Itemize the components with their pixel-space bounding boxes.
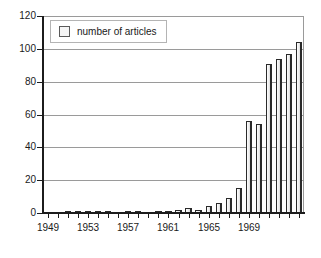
x-axis-tick-label: 1969 — [238, 222, 260, 233]
y-axis-tick-label: 40 — [2, 142, 36, 152]
x-axis-tick — [118, 214, 119, 218]
x-axis-tick — [108, 214, 109, 218]
y-axis-tick-label: 60 — [2, 110, 36, 120]
bar — [246, 121, 252, 213]
x-axis-tick — [68, 214, 69, 218]
y-axis-tick-label: 80 — [2, 77, 36, 87]
legend: number of articles — [50, 20, 167, 43]
y-axis-tick-label: 0 — [2, 208, 36, 218]
x-axis-tick — [179, 214, 180, 218]
x-axis-tick — [128, 214, 129, 218]
bar — [266, 64, 272, 213]
bar — [296, 42, 302, 213]
x-axis-tick-label: 1965 — [198, 222, 220, 233]
x-axis-tick — [259, 214, 260, 218]
legend-label: number of articles — [77, 26, 156, 37]
bar-chart: 020406080100120 194919531957196119651969… — [0, 0, 321, 258]
y-axis-line — [42, 16, 44, 214]
x-axis-tick — [168, 214, 169, 218]
x-axis-tick — [48, 214, 49, 218]
x-axis-tick-label: 1949 — [37, 222, 59, 233]
x-axis-line — [42, 212, 305, 214]
x-axis-tick — [58, 214, 59, 218]
x-axis-tick — [269, 214, 270, 218]
x-axis-tick — [229, 214, 230, 218]
x-axis-tick — [239, 214, 240, 218]
bar — [256, 124, 262, 213]
y-axis-tick-label: 120 — [2, 11, 36, 21]
y-axis-tick-label: 20 — [2, 175, 36, 185]
x-axis-tick — [279, 214, 280, 218]
legend-swatch-icon — [59, 26, 70, 37]
x-axis-tick — [189, 214, 190, 218]
x-axis-tick — [148, 214, 149, 218]
x-axis-tick-label: 1957 — [117, 222, 139, 233]
x-axis-tick — [78, 214, 79, 218]
x-axis-tick-label: 1961 — [157, 222, 179, 233]
x-axis-tick — [249, 214, 250, 218]
x-axis-tick — [289, 214, 290, 218]
x-axis-tick — [138, 214, 139, 218]
x-axis-tick-label: 1953 — [77, 222, 99, 233]
x-axis-tick — [209, 214, 210, 218]
bar — [276, 59, 282, 213]
bar — [286, 54, 292, 213]
y-axis-tick-label: 100 — [2, 44, 36, 54]
gridline — [43, 49, 304, 50]
x-axis-tick — [88, 214, 89, 218]
x-axis-tick — [199, 214, 200, 218]
x-axis-tick — [219, 214, 220, 218]
y-axis-labels: 020406080100120 — [0, 0, 36, 258]
x-axis-tick — [299, 214, 300, 218]
x-axis-tick — [98, 214, 99, 218]
x-axis-tick — [158, 214, 159, 218]
gridline — [43, 16, 304, 17]
bar — [236, 188, 242, 213]
bar — [226, 198, 232, 213]
